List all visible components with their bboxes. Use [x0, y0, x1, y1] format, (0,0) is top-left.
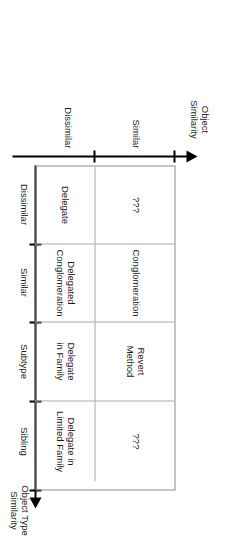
matrix-cell-similar-subtype: Revert Method	[94, 322, 174, 401]
matrix-cell-dissimilar-subtype: Delegate in Family	[34, 322, 94, 401]
pattern-matrix: ??? Conglomeration Revert Method ??? Del…	[35, 165, 175, 490]
object-similarity-tick-0	[173, 150, 175, 162]
rotated-figure-wrapper: Similar Dissimilar Object Similarity Dis…	[0, 0, 225, 545]
object-type-similarity-axis-title: Object Type Similarity	[7, 478, 29, 542]
matrix-cell-dissimilar-dissimilar: Delegate	[34, 166, 94, 244]
object-type-similarity-segment-label-sibling: Sibling	[18, 401, 29, 481]
object-similarity-segment-label-similar: Similar	[130, 96, 141, 148]
matrix-cell-similar-similar: Conglomeration	[94, 244, 174, 322]
object-type-similarity-arrow-icon	[29, 497, 41, 508]
matrix-cell-dissimilar-sibling: Delegate in Limited Family	[34, 401, 94, 481]
matrix-cell-dissimilar-similar: Delegated Conglomeration	[34, 244, 94, 322]
object-similarity-axis-line	[12, 155, 187, 157]
figure-canvas: Similar Dissimilar Object Similarity Dis…	[0, 0, 225, 545]
object-type-similarity-segment-label-dissimilar: Dissimilar	[18, 164, 29, 244]
matrix-cell-similar-dissimilar: ???	[94, 166, 174, 244]
object-similarity-tick-1	[93, 150, 95, 162]
object-similarity-arrow-icon	[186, 150, 197, 162]
object-similarity-segment-label-dissimilar: Dissimilar	[62, 96, 73, 148]
matrix-cell-similar-sibling: ???	[94, 401, 174, 481]
diagram-canvas: Similar Dissimilar Object Similarity Dis…	[0, 0, 225, 545]
object-type-similarity-segment-label-similar: Similar	[18, 242, 29, 322]
object-similarity-axis-title: Object Similarity	[187, 88, 209, 150]
object-type-similarity-segment-label-subtype: Subtype	[18, 321, 29, 401]
